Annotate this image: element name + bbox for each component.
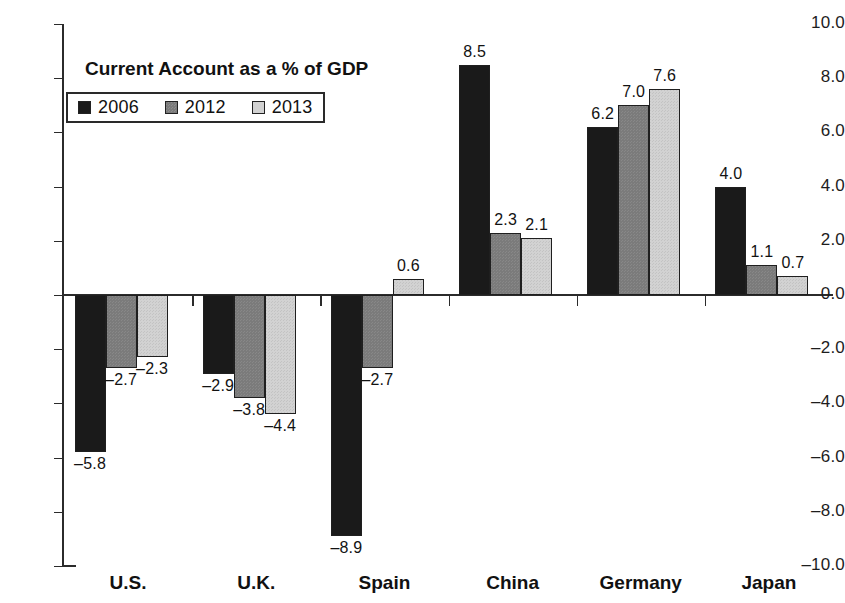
legend-label-2006: 2006	[98, 97, 139, 118]
category-label-germany: Germany	[577, 572, 705, 594]
bar-value-label: 7.6	[637, 67, 692, 85]
y-tick-label: –8.0	[797, 501, 845, 521]
bar-germany-2013[interactable]	[649, 89, 680, 295]
bar-value-label: 7.0	[606, 83, 661, 101]
y-tick-label: –4.0	[797, 392, 845, 412]
legend-swatch-icon-2006	[78, 101, 91, 114]
bar-uk-2013[interactable]	[265, 295, 296, 414]
bar-spain-2013[interactable]	[393, 279, 424, 295]
bar-value-label: 0.7	[765, 254, 820, 272]
legend-label-2012: 2012	[185, 97, 226, 118]
x-axis-bottom-stub	[62, 565, 76, 567]
current-account-bar-chart: 10.08.06.04.02.00.0–2.0–4.0–6.0–8.0–10.0…	[0, 0, 845, 603]
category-label-us: U.S.	[64, 572, 192, 594]
bar-value-label: 6.2	[575, 105, 630, 123]
bar-value-label: 8.5	[447, 43, 502, 61]
bar-value-label: –2.7	[350, 371, 405, 389]
x-tick-mark	[577, 296, 579, 306]
y-tick-label: 8.0	[797, 67, 845, 87]
chart-title: Current Account as a % of GDP	[85, 58, 368, 80]
legend-swatch-icon-2013	[252, 101, 265, 114]
category-label-spain: Spain	[320, 572, 448, 594]
y-tick-mark	[54, 566, 63, 567]
bar-china-2012[interactable]	[490, 233, 521, 295]
y-tick-mark	[54, 403, 63, 404]
legend-item-2013[interactable]: 2013	[252, 97, 313, 118]
y-tick-label: 2.0	[797, 230, 845, 250]
y-tick-mark	[54, 349, 63, 350]
bar-china-2013[interactable]	[521, 238, 552, 295]
bar-value-label: –4.4	[253, 417, 308, 435]
y-tick-label: 10.0	[797, 13, 845, 33]
category-label-japan: Japan	[705, 572, 833, 594]
bar-japan-2006[interactable]	[715, 187, 746, 295]
bar-us-2013[interactable]	[137, 295, 168, 357]
legend-item-2012[interactable]: 2012	[165, 97, 226, 118]
y-tick-mark	[54, 512, 63, 513]
legend-label-2013: 2013	[272, 97, 313, 118]
bar-spain-2006[interactable]	[331, 295, 362, 536]
y-tick-mark	[54, 295, 63, 296]
legend-swatch-icon-2012	[165, 101, 178, 114]
bar-uk-2006[interactable]	[203, 295, 234, 374]
x-tick-mark	[705, 296, 707, 306]
bar-value-label: –8.9	[319, 539, 374, 557]
bar-germany-2012[interactable]	[618, 105, 649, 295]
y-tick-label: 6.0	[797, 121, 845, 141]
bar-value-label: 0.6	[381, 257, 436, 275]
bar-value-label: –5.8	[63, 455, 118, 473]
y-tick-mark	[54, 78, 63, 79]
y-tick-label: –2.0	[797, 338, 845, 358]
legend: 2006 2012 2013	[66, 92, 325, 123]
bar-germany-2006[interactable]	[587, 127, 618, 295]
bar-value-label: 2.1	[509, 216, 564, 234]
bar-value-label: –2.3	[125, 360, 180, 378]
x-tick-mark	[449, 296, 451, 306]
y-tick-mark	[54, 241, 63, 242]
x-tick-mark	[192, 296, 194, 306]
bar-value-label: 4.0	[703, 165, 758, 183]
y-tick-label: –6.0	[797, 447, 845, 467]
y-tick-mark	[54, 132, 63, 133]
bar-us-2012[interactable]	[106, 295, 137, 368]
legend-item-2006[interactable]: 2006	[78, 97, 139, 118]
category-label-china: China	[449, 572, 577, 594]
bar-japan-2013[interactable]	[777, 276, 808, 295]
category-label-uk: U.K.	[192, 572, 320, 594]
bar-china-2006[interactable]	[459, 65, 490, 295]
bar-spain-2012[interactable]	[362, 295, 393, 368]
y-tick-mark	[54, 187, 63, 188]
x-tick-mark	[320, 296, 322, 306]
y-tick-label: 4.0	[797, 176, 845, 196]
bar-value-label: –2.9	[191, 377, 246, 395]
y-tick-mark	[54, 24, 63, 25]
